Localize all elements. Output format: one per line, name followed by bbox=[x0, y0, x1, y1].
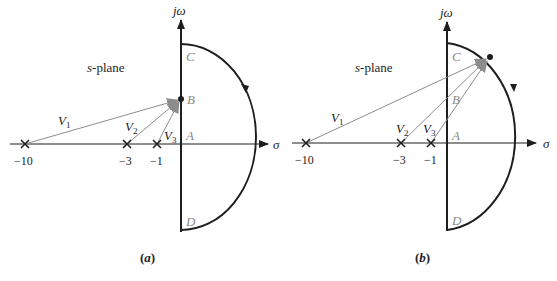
pole-label: −3 bbox=[393, 153, 406, 167]
pole-label: −3 bbox=[119, 154, 132, 168]
point-label-a: A bbox=[185, 128, 194, 143]
contour-direction-arrow-icon bbox=[241, 84, 249, 93]
jomega-label: jω bbox=[171, 3, 186, 18]
contour-direction-arrow-icon bbox=[510, 84, 517, 92]
test-point-b bbox=[178, 96, 184, 102]
point-label-b: B bbox=[452, 92, 460, 107]
caption-b: (b) bbox=[415, 250, 430, 265]
point-label-b: B bbox=[187, 92, 195, 107]
panel-a: σ jω −10 −3 −1 V1 V2 V3 C B bbox=[10, 3, 280, 265]
vector-label-v2: V2 bbox=[396, 121, 408, 138]
sigma-label: σ bbox=[543, 136, 550, 151]
jomega-label: jω bbox=[438, 5, 453, 20]
point-label-d: D bbox=[185, 214, 196, 229]
nyquist-contour-figure: σ jω −10 −3 −1 V1 V2 V3 C B bbox=[0, 0, 557, 281]
vector-label-v3: V3 bbox=[164, 128, 177, 145]
pole-label: −10 bbox=[295, 153, 314, 167]
s-plane-label: s-plane bbox=[87, 60, 125, 75]
vector-label-v3: V3 bbox=[423, 121, 436, 138]
s-plane-label: s-plane bbox=[355, 60, 393, 75]
vector-v2 bbox=[401, 60, 486, 143]
pole-label: −10 bbox=[14, 154, 33, 168]
vector-v1 bbox=[25, 100, 178, 144]
caption-a: (a) bbox=[140, 250, 155, 265]
sigma-label: σ bbox=[273, 137, 280, 152]
point-label-c: C bbox=[452, 49, 461, 64]
panel-b: σ jω −10 −3 −1 V1 V2 V3 C B bbox=[292, 5, 550, 265]
pole-label: −1 bbox=[150, 154, 163, 168]
test-point-on-arc bbox=[487, 54, 493, 60]
vector-label-v2: V2 bbox=[125, 119, 137, 136]
vector-label-v1: V1 bbox=[58, 113, 70, 130]
vector-label-v1: V1 bbox=[331, 110, 343, 127]
point-label-a: A bbox=[451, 128, 460, 143]
point-label-d: D bbox=[451, 213, 462, 228]
pole-label: −1 bbox=[424, 153, 437, 167]
point-label-c: C bbox=[186, 49, 195, 64]
